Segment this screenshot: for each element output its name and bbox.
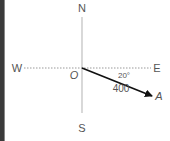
west-label: W <box>12 62 23 74</box>
south-label: S <box>78 122 85 134</box>
east-label: E <box>153 62 160 74</box>
compass-diagram: N S W E O 20° 400 A <box>0 0 170 141</box>
angle-label: 20° <box>118 71 130 80</box>
magnitude-label: 400 <box>113 83 130 94</box>
vector-endpoint-label: A <box>154 90 162 102</box>
origin-label: O <box>70 69 79 81</box>
north-label: N <box>78 2 86 14</box>
